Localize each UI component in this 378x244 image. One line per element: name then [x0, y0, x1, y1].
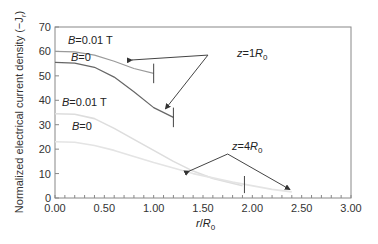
x-axis-title: r/R0	[196, 217, 216, 232]
curve-z1-b0	[55, 62, 173, 117]
x-tick-label: 1.00	[143, 202, 164, 214]
label-z4: z=4R0	[231, 140, 263, 155]
chart: 0102030405060700.000.501.001.502.002.503…	[0, 0, 378, 244]
y-tick-label: 20	[39, 143, 51, 155]
arrow-z1-b	[166, 55, 208, 109]
x-tick-label: 1.50	[192, 202, 213, 214]
plot-frame	[55, 27, 351, 198]
label-b001-z4: B=0.01 T	[62, 96, 107, 108]
y-tick-label: 10	[39, 168, 51, 180]
arrow-z4-a	[189, 154, 227, 171]
y-tick-label: 70	[39, 21, 51, 33]
arrow-z1-a	[132, 55, 208, 60]
x-tick-label: 0.50	[94, 202, 115, 214]
label-z1: z=1R0	[236, 47, 268, 62]
x-tick-label: 2.00	[242, 202, 263, 214]
y-tick-label: 30	[39, 119, 51, 131]
x-tick-label: 2.50	[291, 202, 312, 214]
label-b0-z4: B=0	[72, 120, 92, 132]
label-b001-z1: B=0.01 T	[68, 34, 113, 46]
x-tick-label: 3.00	[340, 202, 361, 214]
label-b0-z1: B=0	[71, 51, 91, 63]
y-tick-label: 60	[39, 45, 51, 57]
y-tick-label: 50	[39, 70, 51, 82]
y-axis-title: Normalized electrical current density (−…	[13, 11, 28, 213]
curve-z1-b001	[55, 51, 154, 73]
y-tick-label: 40	[39, 94, 51, 106]
x-tick-label: 0.00	[44, 202, 65, 214]
